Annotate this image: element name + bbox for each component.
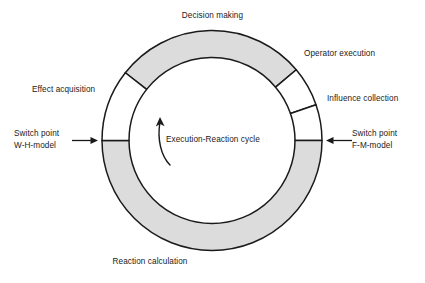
segment-label-influence-collection: Influence collection bbox=[327, 93, 398, 105]
switch-point-label-left: Switch point W-H-model bbox=[14, 128, 59, 151]
segment-label-decision-making: Decision making bbox=[0, 10, 425, 22]
switch-point-left-line2: W-H-model bbox=[14, 141, 56, 150]
center-cycle-label: Execution-Reaction cycle bbox=[166, 134, 260, 146]
arrow-head-switch-point-right bbox=[326, 137, 334, 144]
ring-segment-decision-making bbox=[125, 31, 296, 90]
switch-point-label-right: Switch point F-M-model bbox=[352, 128, 397, 151]
segment-label-reaction-calculation: Reaction calculation bbox=[0, 256, 300, 268]
segment-label-effect-acquisition: Effect acquisition bbox=[32, 84, 95, 96]
ring-segment-reaction-calculation bbox=[102, 141, 322, 251]
switch-point-left-line1: Switch point bbox=[14, 129, 59, 138]
segment-label-operator-execution: Operator execution bbox=[304, 48, 375, 60]
switch-point-right-line1: Switch point bbox=[352, 129, 397, 138]
diagram-canvas: Decision making Operator execution Influ… bbox=[0, 0, 425, 283]
switch-point-right-line2: F-M-model bbox=[352, 141, 392, 150]
arrow-head-switch-point-left bbox=[91, 137, 99, 144]
